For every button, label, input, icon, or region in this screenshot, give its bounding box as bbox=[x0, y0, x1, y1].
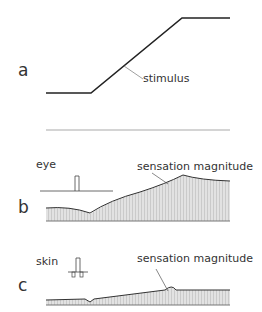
panel-label-c: c bbox=[18, 277, 27, 294]
skin-sensation-pointer-line bbox=[156, 269, 168, 291]
stimulus-pointer-line bbox=[124, 66, 143, 79]
eye-stimulus-probe bbox=[40, 176, 113, 191]
panel-label-a: a bbox=[18, 62, 28, 79]
eye-sensation-label: sensation magnitude bbox=[137, 161, 253, 172]
stimulus-label: stimulus bbox=[143, 73, 190, 84]
skin-sensation-area bbox=[46, 287, 230, 305]
skin-stimulus-probe bbox=[68, 258, 88, 277]
eye-sensation-pointer-line bbox=[152, 173, 168, 184]
stimulus-ramp-trace bbox=[46, 18, 230, 93]
eye-sensation-area bbox=[46, 175, 230, 221]
skin-label: skin bbox=[36, 256, 58, 267]
skin-sensation-label: sensation magnitude bbox=[137, 253, 253, 264]
eye-label: eye bbox=[36, 159, 56, 170]
panel-label-b: b bbox=[18, 199, 29, 216]
